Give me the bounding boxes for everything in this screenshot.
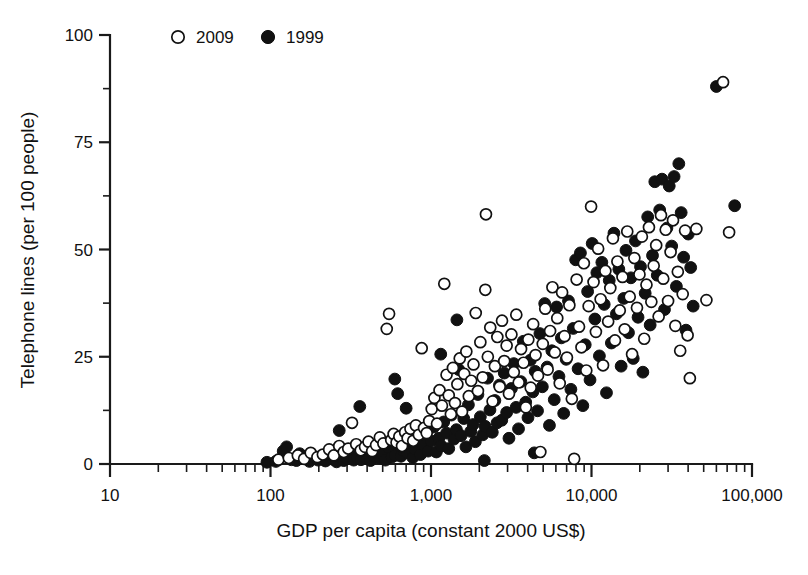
data-point-2009 xyxy=(682,330,693,341)
data-point-2009 xyxy=(590,326,601,337)
data-point-2009 xyxy=(273,454,284,465)
data-point-2009 xyxy=(569,453,580,464)
data-point-2009 xyxy=(466,375,477,386)
y-axis-tick-labels: 0255075100 xyxy=(65,26,93,474)
data-point-2009 xyxy=(614,305,625,316)
data-point-2009 xyxy=(525,382,536,393)
y-tick-label: 100 xyxy=(65,26,93,45)
data-point-2009 xyxy=(593,243,604,254)
data-point-2009 xyxy=(513,377,524,388)
data-point-2009 xyxy=(347,417,358,428)
data-point-2009 xyxy=(540,303,551,314)
data-point-2009 xyxy=(436,400,447,411)
data-point-2009 xyxy=(677,289,688,300)
data-point-2009 xyxy=(487,396,498,407)
data-point-2009 xyxy=(571,274,582,285)
data-point-2009 xyxy=(617,271,628,282)
data-point-2009 xyxy=(452,379,463,390)
data-point-2009 xyxy=(609,335,620,346)
y-axis-ticks xyxy=(99,35,110,464)
data-point-2009 xyxy=(545,326,556,337)
data-point-2009 xyxy=(432,418,443,429)
data-point-2009 xyxy=(619,324,630,335)
data-point-2009 xyxy=(574,321,585,332)
data-point-2009 xyxy=(622,226,633,237)
data-point-2009 xyxy=(583,301,594,312)
data-point-2009 xyxy=(660,224,671,235)
data-point-2009 xyxy=(468,359,479,370)
chart-canvas: 0255075100 101001,00010,000100,000 2009 … xyxy=(0,0,808,575)
data-point-2009 xyxy=(426,404,437,415)
x-tick-label: 1,000 xyxy=(410,486,453,505)
data-point-2009 xyxy=(672,266,683,277)
data-point-2009 xyxy=(586,201,597,212)
data-point-1999 xyxy=(615,360,627,372)
data-point-2009 xyxy=(612,256,623,267)
data-point-2009 xyxy=(636,231,647,242)
data-point-1999 xyxy=(601,387,613,399)
data-point-2009 xyxy=(675,345,686,356)
data-point-1999 xyxy=(548,394,560,406)
data-point-1999 xyxy=(637,366,649,378)
y-tick-label: 75 xyxy=(74,133,93,152)
x-tick-label: 100,000 xyxy=(721,486,782,505)
data-point-1999 xyxy=(532,405,544,417)
data-point-2009 xyxy=(598,360,609,371)
data-point-2009 xyxy=(691,223,702,234)
data-point-2009 xyxy=(588,277,599,288)
data-point-2009 xyxy=(520,402,531,413)
x-tick-label: 10,000 xyxy=(566,486,618,505)
data-point-2009 xyxy=(552,313,563,324)
data-point-2009 xyxy=(680,225,691,236)
data-point-2009 xyxy=(629,253,640,264)
data-point-2009 xyxy=(631,302,642,313)
data-point-2009 xyxy=(724,227,735,238)
data-point-2009 xyxy=(554,378,565,389)
data-point-2009 xyxy=(557,287,568,298)
data-point-2009 xyxy=(535,446,546,457)
data-point-2009 xyxy=(663,295,674,306)
data-point-2009 xyxy=(508,367,519,378)
data-point-1999 xyxy=(354,401,366,413)
x-axis-ticks xyxy=(110,464,752,477)
y-tick-label: 50 xyxy=(74,241,93,260)
data-point-1999 xyxy=(503,432,515,444)
data-point-2009 xyxy=(485,322,496,333)
legend-marker-open-circle xyxy=(172,31,184,43)
data-point-1999 xyxy=(451,314,463,326)
data-point-2009 xyxy=(634,269,645,280)
y-axis-title: Telephone lines (per 100 people) xyxy=(17,112,38,389)
data-point-1999 xyxy=(551,301,563,313)
data-point-2009 xyxy=(528,319,539,330)
data-point-1999 xyxy=(544,419,556,431)
data-point-2009 xyxy=(607,233,618,244)
data-point-2009 xyxy=(542,364,553,375)
data-point-2009 xyxy=(653,311,664,322)
data-point-2009 xyxy=(643,222,654,233)
data-point-2009 xyxy=(503,388,514,399)
data-point-2009 xyxy=(421,428,432,439)
data-point-2009 xyxy=(523,334,534,345)
data-point-2009 xyxy=(655,210,666,221)
data-point-2009 xyxy=(684,373,695,384)
data-point-2009 xyxy=(624,291,635,302)
x-axis-title: GDP per capita (constant 2000 US$) xyxy=(276,520,585,541)
y-tick-label: 0 xyxy=(84,455,93,474)
data-point-2009 xyxy=(480,284,491,295)
data-point-2009 xyxy=(472,386,483,397)
data-point-1999 xyxy=(281,441,293,453)
data-point-1999 xyxy=(687,300,699,312)
data-point-2009 xyxy=(564,300,575,311)
data-point-1999 xyxy=(678,251,690,263)
data-point-2009 xyxy=(648,260,659,271)
x-tick-label: 100 xyxy=(256,486,284,505)
data-point-2009 xyxy=(516,344,527,355)
data-point-2009 xyxy=(639,333,650,344)
legend-label-2009: 2009 xyxy=(196,28,234,47)
data-point-2009 xyxy=(670,320,681,331)
data-point-2009 xyxy=(537,338,548,349)
data-point-2009 xyxy=(457,406,468,417)
data-point-1999 xyxy=(392,388,404,400)
data-point-1999 xyxy=(513,423,525,435)
data-point-2009 xyxy=(497,315,508,326)
